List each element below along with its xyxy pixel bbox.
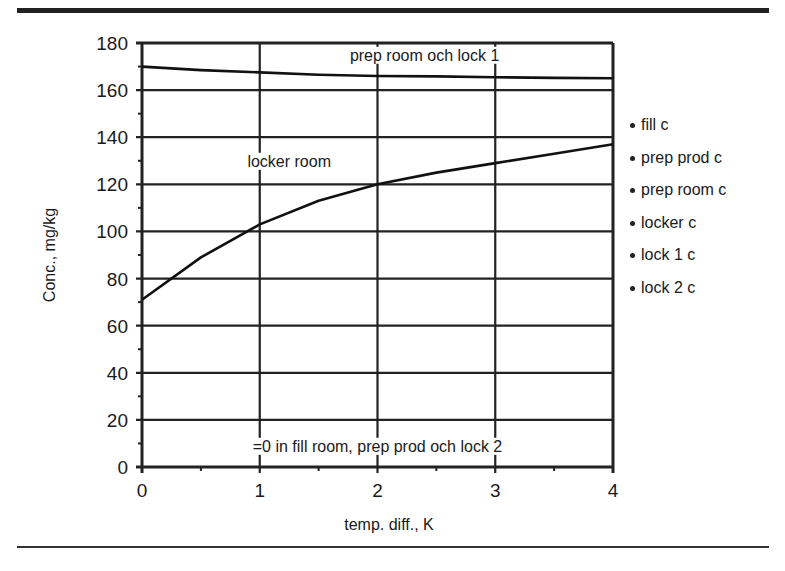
bullet-icon [630,123,635,128]
legend: fill c prep prod c prep room c locker c … [630,116,726,311]
x-tick-label: 0 [137,480,148,501]
chart-annotation: prep room och lock 1 [350,47,500,64]
x-tick-label: 2 [372,480,383,501]
y-tick-label: 120 [96,174,128,195]
legend-item: prep room c [630,181,726,214]
bullet-icon [630,253,635,258]
y-tick-label: 60 [107,316,128,337]
bullet-icon [630,286,635,291]
legend-item: lock 2 c [630,279,726,312]
bullet-icon [630,188,635,193]
x-tick-label: 1 [254,480,265,501]
x-tick-label: 3 [490,480,501,501]
y-axis-tick-labels: 020406080100120140160180 [96,33,128,478]
annotations: prep room och lock 1locker room=0 in fil… [244,47,505,455]
legend-item: fill c [630,116,726,149]
minor-ticks [138,67,554,471]
chart-annotation: locker room [247,153,331,170]
bullet-icon [630,221,635,226]
y-tick-label: 80 [107,269,128,290]
y-tick-label: 20 [107,410,128,431]
chart-annotation: =0 in fill room, prep prod och lock 2 [253,438,503,455]
y-tick-label: 160 [96,80,128,101]
y-tick-label: 180 [96,33,128,54]
x-tick-label: 4 [608,480,619,501]
legend-item: lock 1 c [630,246,726,279]
y-tick-label: 0 [117,457,128,478]
legend-item: prep prod c [630,149,726,182]
gridlines [136,43,613,473]
y-tick-label: 40 [107,363,128,384]
x-axis-title: temp. diff., K [344,516,434,533]
y-axis-title: Conc., mg/kg [41,208,58,302]
y-tick-label: 100 [96,221,128,242]
x-axis-tick-labels: 01234 [137,480,619,501]
bullet-icon [630,156,635,161]
legend-item: locker c [630,214,726,247]
y-tick-label: 140 [96,127,128,148]
